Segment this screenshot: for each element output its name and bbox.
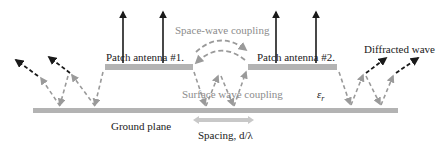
space-wave-arrow-icons [196, 40, 246, 63]
antenna-coupling-diagram: Patch antenna #1. Patch antenna #2. Spac… [0, 0, 442, 145]
patch-antenna-1-label: Patch antenna #1. [106, 51, 184, 63]
diffracted-wave-label: Diffracted wave [364, 43, 435, 55]
diagram-canvas [0, 0, 442, 145]
surface-wave-coupling-label: Surface wave coupling [182, 88, 283, 100]
spacing-label: Spacing, d/λ [198, 129, 253, 141]
patch-antenna-2 [248, 64, 337, 70]
permittivity-label: εr [317, 88, 324, 105]
ground-plane [33, 108, 398, 113]
spacing-arrow-icon [193, 116, 254, 124]
space-wave-coupling-label: Space-wave coupling [175, 24, 269, 36]
patch-antenna-1 [105, 64, 193, 70]
epsilon-subscript: r [321, 94, 324, 103]
patch-antenna-2-label: Patch antenna #2. [257, 51, 335, 63]
ground-plane-label: Ground plane [111, 120, 171, 132]
diffracted-wave-arrow-icons [16, 57, 418, 76]
